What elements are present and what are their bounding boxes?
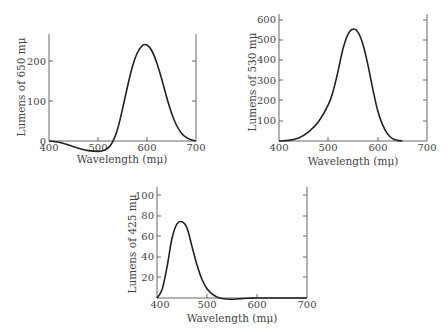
xtick-label: 700	[186, 142, 205, 153]
x-axis-label: Wavelength (mμ)	[77, 153, 168, 165]
ytick-label: 100	[257, 115, 276, 126]
ytick-label: 40	[141, 251, 154, 262]
ytick-label: 200	[27, 56, 46, 67]
xtick-label: 700	[417, 142, 436, 153]
ytick-label: 100	[27, 96, 46, 107]
y-ticks	[157, 195, 307, 277]
y-ticks	[49, 61, 196, 101]
ytick-label: 60	[141, 231, 154, 242]
x-axis-label: Wavelength (mμ)	[308, 155, 399, 167]
y-axis-label: Lumens of 530 mμ	[246, 32, 258, 131]
x-axis-label: Wavelength (mμ)	[187, 312, 278, 324]
xtick-label: 400	[39, 142, 58, 153]
ytick-label: 20	[141, 272, 154, 283]
y-ticks	[279, 20, 427, 121]
xtick-label: 600	[247, 299, 266, 310]
ytick-label: 300	[257, 75, 276, 86]
data-curve	[279, 29, 402, 141]
xtick-label: 500	[318, 142, 337, 153]
data-curve	[157, 221, 307, 299]
data-curve	[49, 45, 196, 152]
y-axis-label: Lumens of 650 mμ	[15, 37, 27, 136]
chart-figure: 0 100 200 400 500 600 700 Wavelength (mμ…	[0, 0, 448, 335]
ytick-label: 400	[257, 54, 276, 65]
xtick-label: 500	[197, 299, 216, 310]
ytick-label: 200	[257, 95, 276, 106]
ytick-label: 600	[257, 14, 276, 25]
ytick-label: 500	[257, 34, 276, 45]
xtick-label: 700	[297, 299, 316, 310]
chart-425: 20 40 60 80 100 400 500 600 700 Waveleng…	[126, 187, 317, 324]
x-ticks	[328, 137, 378, 141]
chart-650: 0 100 200 400 500 600 700 Wavelength (mμ…	[15, 34, 206, 165]
xtick-label: 600	[368, 142, 387, 153]
y-axis-label: Lumens of 425 mμ	[126, 194, 138, 293]
xtick-label: 600	[137, 142, 156, 153]
xtick-label: 400	[150, 299, 169, 310]
chart-530: 100 200 300 400 500 600 400 500 600 700 …	[246, 14, 437, 167]
ytick-label: 80	[141, 210, 154, 221]
xtick-label: 400	[269, 142, 288, 153]
x-ticks	[98, 137, 147, 141]
